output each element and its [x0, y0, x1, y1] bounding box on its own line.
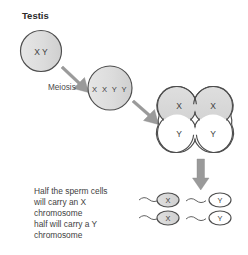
caption-line-3: half will carry a Y	[34, 219, 98, 229]
stage-label-meiosis: Meiosis	[48, 83, 76, 92]
caption-line-0: Half the sperm cells	[34, 186, 108, 196]
sperm-cell-x-bottom: X	[139, 211, 179, 225]
tetrad-cell-label-2: Y	[176, 129, 182, 139]
caption-line-4: chromosome	[34, 230, 83, 240]
sperm-label-0: X	[166, 196, 171, 205]
tetrad-arc-right-mid	[231, 115, 232, 124]
spermatogenesis-diagram: Testis X Y Meiosis X X Y Y	[0, 0, 248, 255]
tetrad-cell-cluster: X X Y Y	[144, 86, 234, 179]
duplicated-cell: X X Y Y	[88, 66, 132, 110]
sperm-cell-y-top: Y	[186, 193, 231, 207]
page-title: Testis	[22, 10, 49, 21]
diagram-canvas: Testis X Y Meiosis X X Y Y	[0, 0, 248, 255]
sperm-label-2: X	[166, 214, 171, 223]
tetrad-cell-label-1: X	[210, 101, 216, 111]
sperm-label-1: Y	[218, 196, 223, 205]
duplicated-cell-label: X X Y Y	[92, 85, 128, 94]
tetrad-cell-label-3: Y	[210, 129, 216, 139]
sperm-label-3: Y	[218, 214, 223, 223]
sperm-cell-y-bottom: Y	[186, 211, 231, 225]
sperm-arrow	[193, 159, 210, 190]
caption-line-2: chromosome	[34, 208, 83, 218]
tetrad-arc-left-mid	[158, 115, 159, 124]
germ-cell-label: X Y	[34, 47, 48, 57]
sperm-cell-x-top: X	[139, 193, 179, 207]
tetrad-cell-label-0: X	[176, 101, 182, 111]
caption-block: Half the sperm cells will carry an X chr…	[33, 186, 108, 240]
germ-cell: X Y	[21, 31, 62, 72]
caption-line-1: will carry an X	[33, 197, 87, 207]
